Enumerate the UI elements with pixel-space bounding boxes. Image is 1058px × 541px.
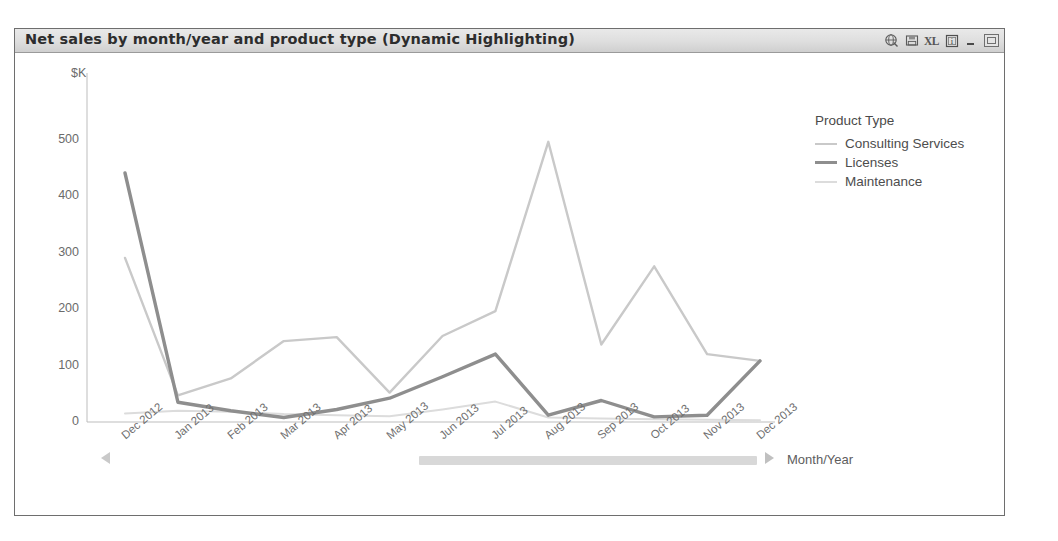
- legend: Product Type Consulting Services License…: [815, 113, 964, 191]
- window-title: Net sales by month/year and product type…: [25, 31, 575, 47]
- chart-window: Net sales by month/year and product type…: [14, 28, 1005, 516]
- save-disk-icon[interactable]: [903, 32, 920, 49]
- maximize-button[interactable]: [983, 32, 1000, 49]
- window-title-bar: Net sales by month/year and product type…: [15, 29, 1004, 53]
- right-arrow-icon[interactable]: [765, 452, 774, 464]
- excel-export-icon[interactable]: XL: [923, 32, 940, 49]
- window-controls: XL i: [883, 30, 1000, 51]
- legend-item-maintenance[interactable]: Maintenance: [815, 172, 964, 191]
- world-globe-icon[interactable]: [883, 32, 900, 49]
- legend-item-licenses[interactable]: Licenses: [815, 153, 964, 172]
- legend-swatch-consulting-services: [815, 143, 837, 145]
- excel-export-label: XL: [924, 35, 939, 47]
- info-box-icon[interactable]: i: [943, 32, 960, 49]
- legend-swatch-licenses: [815, 161, 837, 164]
- series-layer: [125, 142, 760, 421]
- x-axis-title: Month/Year: [787, 452, 853, 467]
- minimize-button[interactable]: [963, 32, 980, 49]
- legend-label-licenses: Licenses: [845, 155, 898, 170]
- legend-item-consulting-services[interactable]: Consulting Services: [815, 134, 964, 153]
- plot-area: $K 500 400 300 200 100 0 Month/Year Dec …: [15, 53, 1004, 515]
- series-line-consulting-services[interactable]: [125, 142, 760, 396]
- legend-title: Product Type: [815, 113, 964, 128]
- horizontal-pan-track[interactable]: [419, 456, 757, 465]
- legend-label-maintenance: Maintenance: [845, 174, 922, 189]
- left-arrow-icon[interactable]: [101, 452, 110, 464]
- legend-swatch-maintenance: [815, 181, 837, 183]
- legend-label-consulting-services: Consulting Services: [845, 136, 964, 151]
